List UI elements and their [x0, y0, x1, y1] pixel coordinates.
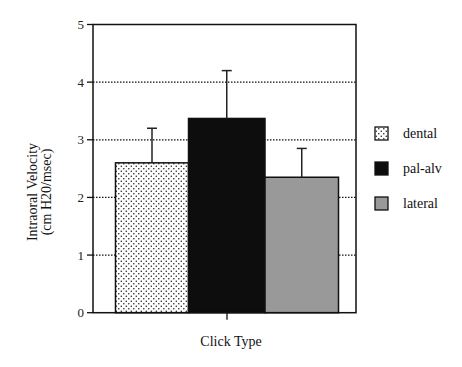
legend: dentalpal-alvlateral [375, 126, 442, 211]
bar-dental [116, 163, 189, 313]
legend-swatch [375, 197, 388, 210]
legend-item-dental: dental [375, 126, 437, 141]
y-tick-label: 3 [78, 132, 85, 147]
legend-swatch [375, 162, 388, 175]
bar-pal-alv [189, 118, 266, 312]
x-axis-title: Click Type [200, 334, 261, 349]
y-axis-title-line: Intraoral Velocity [25, 143, 40, 241]
bar-chart: 012345 Click Type Intraoral Velocity(cm … [0, 0, 462, 367]
legend-item-pal-alv: pal-alv [375, 161, 442, 176]
legend-item-lateral: lateral [375, 196, 438, 211]
bars [116, 71, 339, 313]
y-axis-ticks: 012345 [78, 17, 94, 320]
bar-lateral [265, 177, 339, 312]
x-axis: Click Type [200, 313, 261, 349]
y-axis-title: Intraoral Velocity(cm H20/msec) [25, 143, 55, 241]
y-tick-label: 0 [78, 305, 85, 320]
legend-label: lateral [403, 196, 438, 211]
legend-swatch [375, 127, 388, 140]
y-tick-label: 4 [78, 75, 85, 90]
y-tick-label: 1 [78, 248, 85, 263]
y-tick-label: 5 [78, 17, 85, 32]
legend-label: pal-alv [403, 161, 442, 176]
y-axis-title-line: (cm H20/msec) [39, 148, 55, 235]
y-tick-label: 2 [78, 190, 85, 205]
legend-label: dental [403, 126, 437, 141]
